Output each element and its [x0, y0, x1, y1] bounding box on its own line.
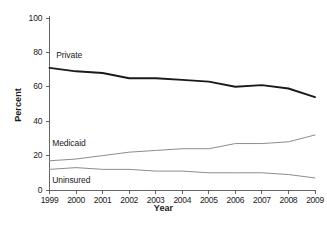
x-tick-label: 2009: [301, 195, 327, 205]
x-tick-label: 2000: [62, 195, 90, 205]
x-tick-label: 2004: [168, 195, 196, 205]
x-tick-label: 2006: [221, 195, 249, 205]
series-line-medicaid: [50, 135, 316, 161]
y-tick-label: 100: [17, 13, 43, 23]
x-tick-label: 2001: [89, 195, 117, 205]
x-tick-label: 2002: [115, 195, 143, 205]
y-tick-label: 60: [17, 81, 43, 91]
y-tick-label: 40: [17, 116, 43, 126]
series-label-uninsured: Uninsured: [52, 175, 90, 185]
series-layer: [50, 68, 316, 178]
series-line-private: [50, 68, 316, 97]
x-tick-label: 2008: [274, 195, 302, 205]
y-tick-label: 0: [17, 185, 43, 195]
x-tick-label: 2005: [195, 195, 223, 205]
series-label-medicaid: Medicaid: [52, 138, 86, 148]
y-tick-label: 80: [17, 47, 43, 57]
axis-layer: [46, 16, 315, 194]
chart-container: Percent Year 020406080100 19992000200120…: [0, 0, 327, 229]
x-tick-label: 2003: [142, 195, 170, 205]
series-label-private: Private: [56, 50, 82, 60]
x-tick-label: 2007: [248, 195, 276, 205]
x-tick-label: 1999: [36, 195, 64, 205]
y-tick-label: 20: [17, 150, 43, 160]
